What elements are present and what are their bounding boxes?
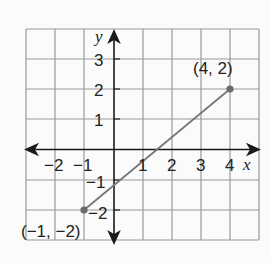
x-tick-neg2: −2 [44, 156, 63, 175]
x-tick-2: 2 [167, 156, 176, 175]
y-tick-neg2: −2 [88, 204, 107, 223]
x-tick-3: 3 [196, 156, 205, 175]
coordinate-plane: y x −2 −1 1 2 3 4 3 2 1 −1 −2 (4, 2) (−1… [0, 0, 271, 263]
x-tick-4: 4 [225, 156, 234, 175]
y-tick-2: 2 [94, 81, 103, 100]
point-b [226, 85, 233, 92]
y-tick-3: 3 [94, 51, 103, 70]
point-a [80, 206, 87, 213]
point-b-label: (4, 2) [193, 59, 233, 78]
y-axis [109, 31, 119, 243]
point-a-label: (−1, −2) [21, 222, 81, 241]
x-tick-1: 1 [138, 156, 147, 175]
y-tick-1: 1 [94, 111, 103, 130]
y-axis-label: y [93, 27, 103, 46]
x-axis-label: x [242, 155, 251, 174]
y-tick-neg1: −1 [86, 173, 105, 192]
